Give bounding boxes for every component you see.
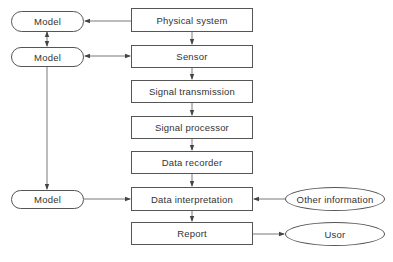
- box-signal-processor: Signal processor: [131, 116, 253, 139]
- box-label: Report: [177, 228, 207, 239]
- model-label: Model: [34, 52, 61, 63]
- model-label: Model: [34, 16, 61, 27]
- model-label: Model: [34, 194, 61, 205]
- model-3: Model: [11, 190, 84, 209]
- box-label: Data recorder: [162, 157, 223, 168]
- box-label: Data interpretation: [151, 194, 233, 205]
- box-data-recorder: Data recorder: [131, 151, 253, 174]
- box-label: Physical system: [156, 15, 227, 26]
- ellipse-label: Other information: [297, 194, 374, 205]
- box-physical-system: Physical system: [131, 8, 253, 32]
- box-sensor: Sensor: [131, 45, 253, 68]
- model-1: Model: [11, 11, 84, 32]
- ellipse-other-information: Other information: [285, 187, 385, 211]
- box-report: Report: [131, 222, 253, 245]
- box-label: Signal transmission: [149, 86, 235, 97]
- ellipse-label: Usor: [325, 229, 346, 240]
- box-signal-transmission: Signal transmission: [131, 80, 253, 103]
- ellipse-user: Usor: [285, 222, 385, 246]
- model-2: Model: [11, 47, 84, 67]
- box-label: Sensor: [176, 51, 207, 62]
- box-data-interpretation: Data interpretation: [131, 187, 253, 211]
- box-label: Signal processor: [155, 122, 229, 133]
